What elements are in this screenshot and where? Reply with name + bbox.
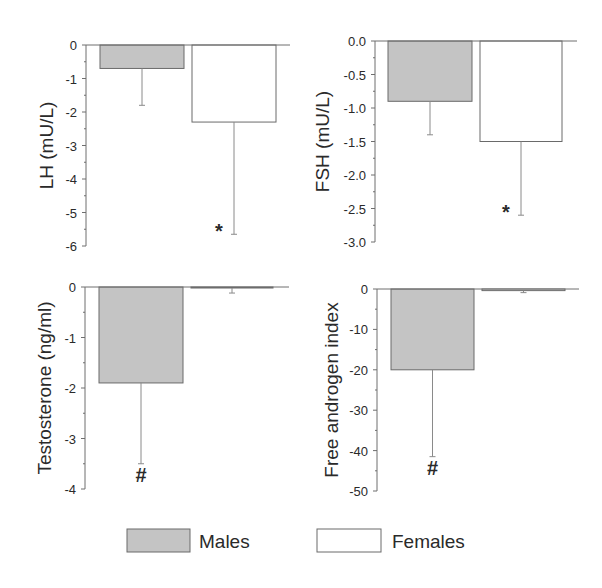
bar-males [100, 45, 184, 68]
y-axis-title: Testosterone (ng/ml) [34, 301, 55, 474]
free-androgen-index-panel: 0-10-20-30-40-50Free androgen index# [321, 282, 579, 499]
bar-females [192, 45, 276, 122]
bar-males [391, 289, 474, 370]
y-tick-label: -0.5 [344, 68, 366, 83]
legend-item-females: Females [317, 529, 465, 552]
y-tick-label: -10 [349, 322, 368, 337]
y-tick-label: -2 [64, 381, 76, 396]
figure: 0-1-2-3-4-5-6LH (mU/L)* 0.0-0.5-1.0-1.5-… [0, 0, 602, 588]
significance-asterisk: * [502, 201, 510, 223]
y-tick-label: -30 [349, 403, 368, 418]
y-tick-label: -40 [349, 444, 368, 459]
y-tick-label: -50 [349, 484, 368, 499]
legend-swatch-males [127, 529, 190, 552]
y-tick-label: 0 [361, 282, 368, 297]
y-tick-label: -1 [64, 331, 76, 346]
legend: Males Females [127, 529, 465, 552]
y-axis-title: LH (mU/L) [36, 102, 57, 190]
bar-males [388, 41, 472, 101]
y-axis-title: Free androgen index [321, 302, 342, 478]
testosterone-panel: 0-1-2-3-4Testosterone (ng/ml)# [34, 280, 289, 497]
legend-label-males: Males [199, 531, 250, 552]
significance-hash: # [135, 464, 146, 486]
y-tick-label: -3.0 [344, 235, 366, 250]
y-tick-label: 0.0 [348, 34, 366, 49]
y-tick-label: 0 [70, 38, 77, 53]
chart-canvas: 0-1-2-3-4-5-6LH (mU/L)* 0.0-0.5-1.0-1.5-… [0, 0, 602, 588]
y-tick-label: -5 [65, 206, 77, 221]
fsh-panel: 0.0-0.5-1.0-1.5-2.0-2.5-3.0FSH (mU/L)* [312, 34, 577, 250]
bar-males [99, 287, 183, 383]
legend-item-males: Males [127, 529, 250, 552]
lh-panel: 0-1-2-3-4-5-6LH (mU/L)* [36, 38, 290, 254]
y-tick-label: -1.0 [344, 101, 366, 116]
y-tick-label: -4 [65, 172, 77, 187]
y-tick-label: -2.0 [344, 168, 366, 183]
y-tick-label: -1.5 [344, 135, 366, 150]
y-tick-label: -2 [65, 105, 77, 120]
y-tick-label: -20 [349, 363, 368, 378]
y-axis-title: FSH (mU/L) [312, 91, 333, 192]
y-tick-label: 0 [69, 280, 76, 295]
y-tick-label: -3 [64, 432, 76, 447]
significance-asterisk: * [215, 220, 223, 242]
significance-hash: # [427, 457, 438, 479]
y-tick-label: -6 [65, 239, 77, 254]
y-tick-label: -4 [64, 482, 76, 497]
bar-females [480, 41, 562, 142]
y-tick-label: -1 [65, 72, 77, 87]
legend-label-females: Females [392, 531, 465, 552]
legend-swatch-females [317, 529, 381, 552]
y-tick-label: -2.5 [344, 202, 366, 217]
y-tick-label: -3 [65, 139, 77, 154]
